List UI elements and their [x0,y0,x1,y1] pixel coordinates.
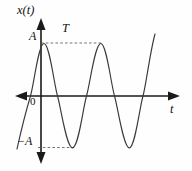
y-axis-arrow-up-icon [37,18,46,30]
amplitude-negative-label: −A [17,135,32,147]
amplitude-positive-label: A [29,30,36,42]
x-axis-arrow-right-icon [168,92,180,101]
y-axis-arrow-down-icon [37,152,46,164]
x-axis-label: t [170,103,173,116]
origin-label: 0 [30,96,36,107]
waveform-figure: x(t) A −A T 0 t [0,0,192,171]
sine-wave-curve [17,34,155,149]
period-label: T [62,22,69,35]
x-axis-arrow-left-icon [15,92,27,101]
y-axis-label: x(t) [17,4,34,17]
